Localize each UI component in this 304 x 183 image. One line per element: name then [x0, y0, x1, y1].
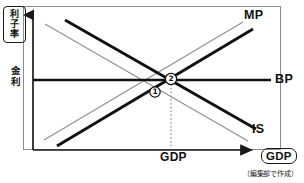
- figure-frame: [24, 7, 281, 150]
- is-mp-bp-diagram: 利 子 率 金 利 MP BP IS 1 2 GDP GDP （編集部で作成）: [0, 0, 304, 183]
- is-shift-curve: [45, 24, 248, 141]
- bp-curve-label: BP: [275, 72, 293, 86]
- kinri-char-1: 金: [11, 66, 21, 77]
- mp-curve-label: MP: [244, 8, 264, 22]
- is-curve-label: IS: [252, 122, 265, 136]
- x-axis-tick-label: GDP: [160, 150, 187, 164]
- y-axis-title-boxed: 利 子 率: [3, 6, 26, 43]
- point-1-label: 1: [150, 87, 160, 97]
- x-axis-title-boxed: GDP: [261, 148, 297, 164]
- y-axis-label-kinri: 金 利: [11, 66, 21, 87]
- point-2-label: 2: [166, 74, 176, 84]
- is-curve: [65, 20, 256, 129]
- y-axis-title-char-2: 子: [5, 19, 24, 29]
- y-axis-title-char-3: 率: [5, 29, 24, 39]
- y-axis-title-char-1: 利: [5, 9, 24, 19]
- figure-credit: （編集部で作成）: [243, 168, 297, 178]
- kinri-char-2: 利: [11, 77, 21, 88]
